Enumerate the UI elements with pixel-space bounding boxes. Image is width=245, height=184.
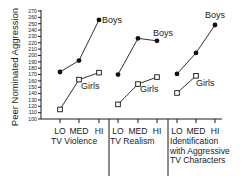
x-category-label: LO — [54, 126, 66, 136]
group-tv-violence: BoysGirls — [58, 15, 123, 112]
girls-data-point — [155, 75, 160, 80]
girls-series-label: Girls — [140, 84, 159, 94]
boys-line — [177, 25, 215, 74]
boys-data-point — [155, 38, 160, 43]
y-axis: 1001101201301401501601701801902002102202… — [28, 8, 41, 122]
line-chart: Peer Nominated Aggression 10011012013014… — [0, 0, 245, 184]
girls-series-label: Girls — [81, 81, 100, 91]
chart-canvas: Peer Nominated Aggression 10011012013014… — [0, 0, 245, 184]
x-axis: LOMEDHITV ViolenceLOMEDHITV RealismLOMED… — [41, 119, 230, 176]
boys-series-label: Boys — [205, 10, 226, 20]
group-label: TV Violence — [51, 136, 97, 146]
group-label: TV Characters — [170, 155, 225, 165]
boys-data-point — [116, 72, 121, 77]
group-identification-with-aggressive-tv-characters: BoysGirls — [175, 10, 226, 95]
y-tick-label: 230 — [28, 33, 37, 39]
girls-data-point — [58, 107, 63, 112]
y-tick-label: 130 — [28, 97, 37, 103]
y-tick-label: 110 — [29, 109, 37, 115]
boys-data-point — [58, 70, 63, 75]
group-label: with Aggressive — [169, 146, 230, 156]
y-tick-label: 250 — [28, 21, 37, 27]
y-tick-label: 180 — [28, 65, 37, 71]
boys-data-point — [77, 58, 82, 63]
girls-data-point — [97, 70, 102, 75]
x-category-label: LO — [171, 126, 183, 136]
y-axis-title: Peer Nominated Aggression — [9, 8, 20, 126]
y-tick-label: 150 — [28, 84, 37, 90]
y-tick-label: 190 — [28, 59, 37, 65]
boys-data-point — [136, 36, 141, 41]
boys-data-point — [97, 17, 102, 22]
plot-area: BoysGirlsBoysGirlsBoysGirls — [58, 10, 226, 112]
y-tick-label: 210 — [28, 46, 37, 52]
girls-data-point — [175, 91, 180, 96]
x-category-label: MED — [128, 126, 147, 136]
x-category-label: MED — [69, 126, 88, 136]
boys-data-point — [213, 23, 218, 28]
boys-series-label: Boys — [153, 28, 174, 38]
y-tick-label: 220 — [28, 40, 37, 46]
boys-data-point — [194, 51, 199, 56]
y-axis-label: Peer Nominated Aggression — [9, 8, 20, 126]
y-tick-label: 100 — [28, 116, 37, 122]
girls-data-point — [116, 102, 121, 107]
x-category-label: LO — [112, 126, 124, 136]
boys-data-point — [175, 71, 180, 76]
boys-line — [118, 38, 157, 74]
group-label: TV Realism — [110, 136, 154, 146]
y-tick-label: 140 — [28, 90, 37, 96]
y-tick-label: 260 — [28, 14, 37, 20]
x-category-label: HI — [153, 126, 162, 136]
x-category-label: HI — [211, 126, 220, 136]
boys-line — [60, 20, 99, 72]
boys-series-label: Boys — [102, 15, 123, 25]
y-tick-label: 240 — [28, 27, 37, 33]
group-tv-realism: BoysGirls — [116, 28, 174, 107]
group-label: Identification — [170, 136, 218, 146]
girls-series-label: Girls — [196, 78, 215, 88]
y-tick-label: 160 — [28, 78, 37, 84]
y-tick-label: 270 — [28, 8, 37, 14]
x-category-label: MED — [186, 126, 205, 136]
y-tick-label: 200 — [28, 52, 37, 58]
y-tick-label: 120 — [28, 103, 37, 109]
x-category-label: HI — [95, 126, 104, 136]
y-tick-label: 170 — [28, 71, 37, 77]
girls-line — [177, 76, 196, 93]
